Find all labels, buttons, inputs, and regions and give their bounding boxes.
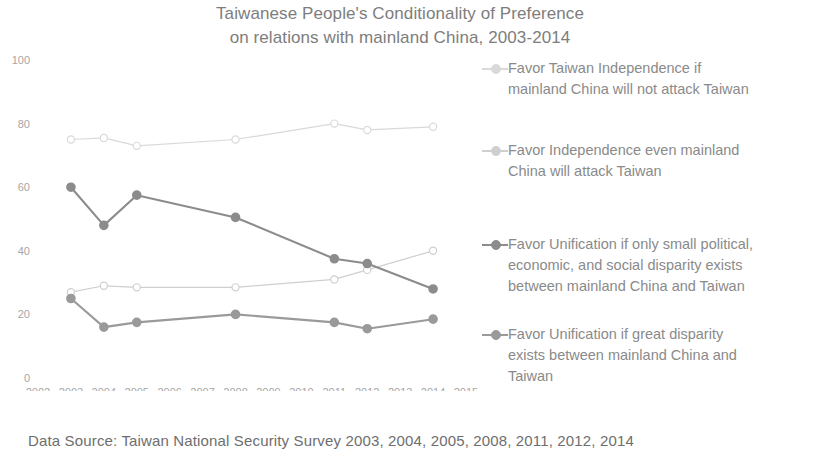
x-axis-tick-2011: 2011 (322, 386, 346, 391)
x-axis-tick-2009: 2009 (256, 386, 280, 391)
legend-dot-3 (491, 330, 501, 340)
data-point-2-2008 (232, 213, 240, 221)
legend-dot-2 (491, 240, 501, 250)
legend-label-3: Favor Unification if great disparity exi… (508, 324, 737, 387)
y-axis-tick-40: 40 (18, 245, 30, 257)
legend-marker-icon-1 (482, 142, 508, 160)
data-point-1-2008 (232, 284, 239, 291)
series-line-2 (71, 187, 433, 289)
data-point-0-2012 (364, 126, 371, 133)
legend-label-0: Favor Taiwan Independence if mainland Ch… (508, 58, 749, 100)
x-axis-tick-2013: 2013 (388, 386, 412, 391)
data-point-1-2005 (133, 284, 140, 291)
chart-title: Taiwanese People's Conditionality of Pre… (150, 2, 650, 50)
series-1 (67, 247, 436, 296)
series-3 (67, 295, 437, 333)
plot-area: 0204060801002002200320042005200620072008… (0, 46, 500, 391)
data-point-2-2012 (363, 260, 371, 268)
data-point-2-2005 (133, 191, 141, 199)
data-point-0-2004 (100, 134, 107, 141)
series-line-1 (71, 251, 433, 292)
x-axis-tick-2007: 2007 (190, 386, 214, 391)
data-point-3-2014 (429, 315, 437, 323)
data-point-1-2004 (100, 282, 107, 289)
chart-title-line-1: Taiwanese People's Conditionality of Pre… (150, 2, 650, 26)
series-line-0 (71, 124, 433, 146)
x-axis-tick-2008: 2008 (223, 386, 247, 391)
data-point-0-2011 (331, 120, 338, 127)
data-point-3-2005 (133, 318, 141, 326)
data-point-3-2012 (363, 325, 371, 333)
data-point-3-2004 (100, 323, 108, 331)
x-axis-tick-2010: 2010 (289, 386, 313, 391)
data-point-0-2003 (67, 136, 74, 143)
legend-item-3[interactable]: Favor Unification if great disparity exi… (482, 324, 819, 387)
x-axis-tick-2003: 2003 (59, 386, 83, 391)
data-point-2-2011 (330, 255, 338, 263)
legend-marker-icon-2 (482, 236, 508, 254)
data-point-1-2014 (429, 247, 436, 254)
legend-label-1: Favor Independence even mainland China w… (508, 140, 739, 182)
data-point-0-2008 (232, 136, 239, 143)
x-axis-tick-2002: 2002 (26, 386, 50, 391)
data-point-2-2003 (67, 183, 75, 191)
data-source-note: Data Source: Taiwan National Security Su… (28, 432, 634, 449)
data-point-3-2008 (232, 310, 240, 318)
chart-page: Taiwanese People's Conditionality of Pre… (0, 0, 819, 460)
y-axis-tick-60: 60 (18, 181, 30, 193)
data-point-3-2003 (67, 295, 75, 303)
data-point-2-2014 (429, 285, 437, 293)
series-0 (67, 120, 436, 149)
data-point-0-2014 (429, 123, 436, 130)
x-axis-tick-2015: 2015 (454, 386, 478, 391)
legend-dot-1 (491, 146, 501, 156)
legend-marker-icon-3 (482, 326, 508, 344)
x-axis-tick-2012: 2012 (355, 386, 379, 391)
x-axis-tick-2014: 2014 (421, 386, 445, 391)
data-point-2-2004 (100, 221, 108, 229)
line-chart-svg: 0204060801002002200320042005200620072008… (0, 46, 500, 391)
data-point-1-2011 (331, 276, 338, 283)
legend-item-2[interactable]: Favor Unification if only small politica… (482, 234, 819, 297)
x-axis-tick-2004: 2004 (92, 386, 116, 391)
legend-marker-icon-0 (482, 60, 508, 78)
series-line-3 (71, 299, 433, 329)
data-point-3-2011 (330, 318, 338, 326)
legend-item-1[interactable]: Favor Independence even mainland China w… (482, 140, 819, 182)
data-point-0-2005 (133, 142, 140, 149)
x-axis-tick-2005: 2005 (125, 386, 149, 391)
series-2 (67, 183, 437, 293)
y-axis-tick-0: 0 (24, 372, 30, 384)
y-axis-tick-20: 20 (18, 308, 30, 320)
legend-label-2: Favor Unification if only small politica… (508, 234, 753, 297)
x-axis-tick-2006: 2006 (157, 386, 181, 391)
legend-item-0[interactable]: Favor Taiwan Independence if mainland Ch… (482, 58, 819, 100)
y-axis-tick-80: 80 (18, 118, 30, 130)
y-axis-tick-100: 100 (12, 54, 30, 66)
legend-dot-0 (491, 64, 501, 74)
